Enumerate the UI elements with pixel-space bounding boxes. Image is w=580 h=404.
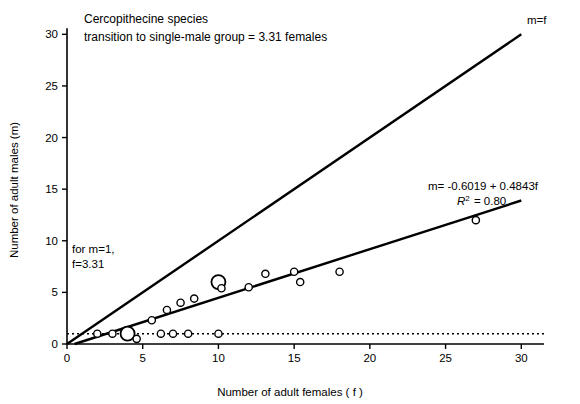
data-point	[163, 306, 170, 313]
r-squared-equals: = 0.80	[471, 195, 507, 207]
annotation-title-line-1: Cercopithecine species	[84, 12, 208, 26]
y-tick-label: 0	[52, 338, 58, 350]
y-tick-label: 15	[45, 183, 58, 195]
transition-note-line-2: f=3.31	[72, 258, 104, 270]
data-point	[148, 317, 155, 324]
data-point	[185, 330, 192, 337]
r-squared-symbol: R	[457, 195, 465, 207]
data-point	[262, 270, 269, 277]
data-point	[191, 295, 198, 302]
data-point	[291, 268, 298, 275]
x-tick-label: 20	[363, 352, 376, 364]
data-point	[133, 335, 140, 342]
x-tick-label: 10	[212, 352, 225, 364]
data-point	[109, 330, 116, 337]
transition-note-line-1: for m=1,	[72, 243, 115, 255]
data-point	[169, 330, 176, 337]
y-tick-label: 20	[45, 132, 58, 144]
r-squared-exponent: 2	[465, 194, 470, 203]
data-point	[177, 299, 184, 306]
r-squared-label: R2 = 0.80	[457, 194, 506, 208]
data-point	[472, 217, 479, 224]
data-point	[218, 285, 225, 292]
x-tick-label: 5	[140, 352, 146, 364]
data-point	[94, 330, 101, 337]
data-point	[336, 268, 343, 275]
y-tick-label: 5	[52, 286, 58, 298]
scatter-plot: 051015202530051015202530 Number of adult…	[0, 0, 580, 404]
data-point	[157, 330, 164, 337]
y-axis-title: Number of adult males (m)	[8, 122, 20, 258]
y-tick-label: 30	[45, 28, 58, 40]
y-tick-label: 10	[45, 235, 58, 247]
data-point	[245, 284, 252, 291]
annotation-title-line-2: transition to single-male group = 3.31 f…	[84, 30, 327, 44]
x-tick-label: 0	[64, 352, 70, 364]
chart-container: 051015202530051015202530 Number of adult…	[0, 0, 580, 404]
y-tick-label: 25	[45, 80, 58, 92]
data-point	[215, 330, 222, 337]
x-axis-title: Number of adult females ( f )	[217, 386, 363, 398]
x-tick-label: 25	[439, 352, 452, 364]
x-tick-label: 30	[515, 352, 528, 364]
regression-equation-label: m= -0.6019 + 0.4843f	[428, 180, 539, 192]
data-point	[297, 278, 304, 285]
identity-line-label: m=f	[527, 14, 547, 26]
x-tick-label: 15	[288, 352, 301, 364]
